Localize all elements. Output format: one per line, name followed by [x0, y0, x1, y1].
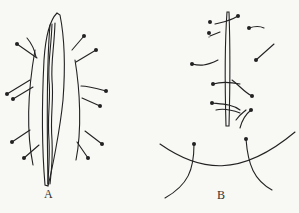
panel-a-specimen [7, 13, 106, 186]
figure: A B [0, 0, 299, 213]
panel-label-b: B [217, 188, 225, 203]
diagram-drawing [0, 0, 299, 213]
panel-b-specimen [160, 12, 295, 198]
panel-label-a: A [44, 187, 53, 202]
